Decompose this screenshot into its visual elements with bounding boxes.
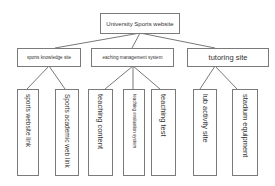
node-label: stadium equipment	[241, 94, 250, 157]
node-label: teaching test	[159, 94, 168, 137]
node-teaching-management-system: eaching management system	[91, 48, 174, 67]
node-label: teaching evaluation system	[132, 94, 137, 148]
node-label: eaching management system	[102, 55, 162, 60]
node-sports-knowledge-site: sports knowledge site	[17, 48, 81, 67]
node-lub-activity-site: lub activity site	[193, 89, 217, 176]
node-stadium-equipment: stadium equipment	[232, 89, 258, 176]
node-sports-website-link: sports website link	[17, 89, 39, 176]
node-label: Sports academic web link	[64, 94, 71, 168]
root-label: University Sports website	[106, 21, 173, 27]
node-label: sports website link	[25, 94, 32, 147]
node-teaching-test: teaching test	[151, 89, 176, 176]
node-label: lub activity site	[201, 94, 210, 143]
node-label: sports knowledge site	[27, 55, 71, 60]
node-tutoring-site: tutoring site	[187, 48, 269, 67]
node-teaching-evaluation-system: teaching evaluation system	[123, 89, 145, 176]
node-label: tutoring site	[209, 53, 248, 62]
node-teaching-content: teaching content	[88, 89, 113, 176]
node-sports-academic-web-link: Sports academic web link	[55, 89, 79, 176]
root-node: University Sports website	[100, 13, 180, 34]
node-label: teaching content	[96, 94, 105, 149]
